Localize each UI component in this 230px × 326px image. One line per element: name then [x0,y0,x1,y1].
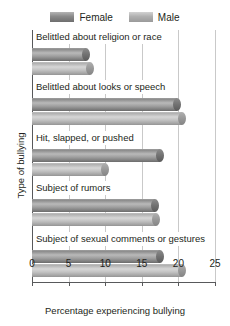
bar-body [32,112,182,125]
legend-label-female: Female [79,12,112,23]
category-label: Subject of sexual comments or gestures [35,232,207,246]
bar-end-cap [173,98,181,111]
bar-female [32,199,155,212]
bar-female [32,149,160,162]
bar-body [32,48,86,61]
x-axis-tick [105,282,106,286]
bar-group: Hit, slapped, or pushed [32,131,215,181]
category-label: Subject of rumors [35,181,112,195]
legend-label-male: Male [158,12,180,23]
bar-body [32,98,177,111]
bar-end-cap [152,213,160,226]
x-axis-tick [178,282,179,286]
bar-body [32,163,105,176]
bar-body [32,149,160,162]
chart-legend: Female Male [0,8,230,26]
x-axis-tick-label: 5 [54,258,84,270]
category-label: Belittled about religion or race [35,30,164,44]
x-axis-line [32,282,215,283]
bar-male [32,213,156,226]
bar-female [32,48,86,61]
legend-item-female: Female [50,12,112,23]
bar-body [32,213,156,226]
x-axis-tick-label: 0 [17,258,47,270]
gridline [215,30,216,282]
bar-end-cap [101,163,109,176]
bar-male [32,163,105,176]
x-axis-title: Percentage experiencing bullying [0,305,230,316]
bar-end-cap [151,199,159,212]
x-axis-tick-label: 25 [200,258,230,270]
x-axis-tick-label: 20 [163,258,193,270]
bar-body [32,199,155,212]
bar-male [32,62,90,75]
legend-item-male: Male [129,12,180,23]
x-axis-tick [215,282,216,286]
x-axis-tick-label: 10 [90,258,120,270]
bullying-bar-chart: Female Male Type of bullying Belittled a… [0,0,230,326]
bar-end-cap [82,48,90,61]
bar-end-cap [178,112,186,125]
bar-end-cap [156,149,164,162]
bar-group: Belittled about religion or race [32,30,215,80]
bar-end-cap [86,62,94,75]
bar-group: Subject of sexual comments or gestures [32,232,215,282]
bar-body [32,62,90,75]
y-axis-title: Type of bullying [15,91,26,241]
category-label: Hit, slapped, or pushed [35,131,136,145]
x-axis-tick [142,282,143,286]
bar-group: Subject of rumors [32,181,215,231]
legend-swatch-female-icon [50,12,74,22]
x-axis-tick-label: 15 [127,258,157,270]
x-axis-tick [32,282,33,286]
legend-swatch-male-icon [129,12,153,22]
bar-female [32,98,177,111]
bar-group: Belittled about looks or speech [32,80,215,130]
bar-male [32,112,182,125]
category-label: Belittled about looks or speech [35,80,167,94]
x-axis-tick [69,282,70,286]
plot-area: Belittled about religion or raceBelittle… [32,30,215,282]
